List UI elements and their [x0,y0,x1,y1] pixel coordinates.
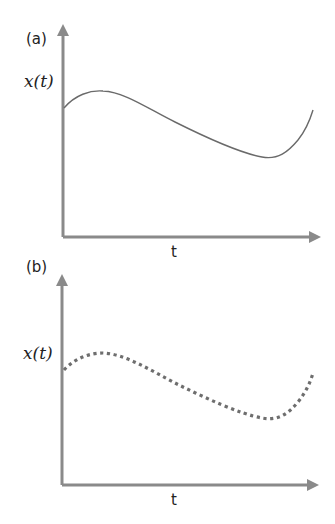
panel-b-y-axis-label: x(t) [23,343,53,363]
panel-b-x-axis-label: t [171,491,177,509]
panel-a-y-axis-label: x(t) [24,71,54,91]
panel-a-x-arrow-icon [309,231,321,243]
panel-a-curve [64,91,313,158]
panel-a-y-arrow-icon [57,24,69,36]
figure: (a) x(t) t (b) x(t) t [0,0,335,524]
panel-a: (a) x(t) t [24,24,321,261]
panel-a-x-axis-label: t [171,243,177,261]
panel-a-label: (a) [26,30,47,48]
panel-b-label: (b) [26,258,47,276]
panel-b: (b) x(t) t [23,258,319,509]
panel-b-x-arrow-icon [307,479,319,491]
panel-b-y-arrow-icon [56,274,68,286]
panel-b-curve [64,353,313,419]
